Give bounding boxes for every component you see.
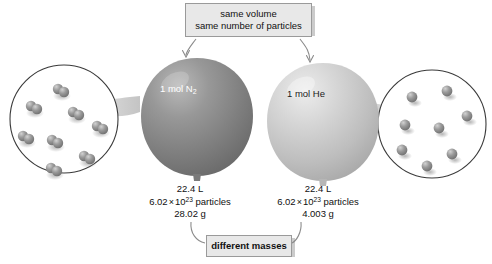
magnifier-helium: [378, 70, 486, 178]
particles-unit-nitrogen: particles: [195, 196, 230, 207]
illustration-layer: [0, 0, 492, 264]
callout-top-line2: same number of particles: [190, 20, 307, 32]
particles-times-nitrogen: ×: [168, 197, 175, 207]
stat-volume-helium: 22.4 L: [248, 183, 388, 196]
callout-different-masses: different masses: [206, 235, 292, 257]
particles-exponent-helium: 23: [313, 196, 320, 203]
particles-base-helium: 10: [303, 196, 314, 207]
particles-exponent-nitrogen: 23: [185, 196, 192, 203]
stat-mass-helium: 4.003 g: [248, 208, 388, 221]
stat-particles-helium: 6.02×1023 particles: [248, 196, 388, 209]
callout-same-volume: same volume same number of particles: [185, 3, 312, 37]
callout-bottom-text: different masses: [209, 240, 289, 252]
particles-base-nitrogen: 10: [175, 196, 186, 207]
balloon-label-helium: 1 mol He: [287, 88, 325, 99]
particles-mantissa-helium: 6.02: [277, 196, 296, 207]
balloon-label-helium-text: 1 mol He: [287, 88, 325, 99]
balloon-label-nitrogen-subscript: 2: [193, 88, 197, 95]
balloon-label-nitrogen-text: 1 mol N: [160, 83, 193, 94]
stat-volume-nitrogen: 22.4 L: [120, 183, 260, 196]
stat-mass-nitrogen: 28.02 g: [120, 208, 260, 221]
callout-top-line1: same volume: [190, 8, 307, 20]
particles-mantissa-nitrogen: 6.02: [149, 196, 168, 207]
particles-times-helium: ×: [296, 197, 303, 207]
balloon-nitrogen: [141, 58, 253, 181]
stats-nitrogen: 22.4 L 6.02×1023 particles 28.02 g: [120, 183, 260, 221]
magnifier-nitrogen: [10, 65, 118, 180]
stat-particles-nitrogen: 6.02×1023 particles: [120, 196, 260, 209]
mole-comparison-figure: same volume same number of particles 1 m…: [0, 0, 492, 264]
stats-helium: 22.4 L 6.02×1023 particles 4.003 g: [248, 183, 388, 221]
balloon-label-nitrogen: 1 mol N2: [160, 83, 197, 95]
particles-unit-helium: particles: [323, 196, 358, 207]
balloon-helium: [267, 63, 379, 186]
